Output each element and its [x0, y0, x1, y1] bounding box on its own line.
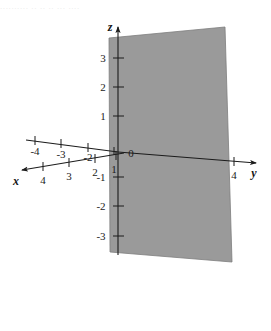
- z-tick-label-3: 3: [100, 52, 106, 64]
- x-tick-label-2: 2: [92, 166, 98, 178]
- x-tick-label-1: 1: [111, 163, 117, 175]
- z-tick-label-1: 1: [100, 110, 106, 122]
- shaded-plane: [109, 27, 232, 262]
- z-tick-label-neg-3: -3: [96, 230, 106, 242]
- z-axis-label: z: [107, 20, 113, 34]
- y-tick-label-neg-3: -3: [56, 148, 66, 160]
- x-tick-label-4: 4: [40, 174, 46, 186]
- y-tick-label-4: 4: [231, 169, 237, 181]
- y-axis-negative: [26, 140, 118, 152]
- y-tick-label-neg-2: -2: [83, 151, 92, 163]
- y-tick-label-neg-4: -4: [30, 145, 40, 157]
- figure-container: .......... .. .. .. ... ....: [0, 0, 271, 331]
- z-tick-label-neg-2: -2: [96, 200, 105, 212]
- z-tick-label-neg-1: -1: [96, 171, 105, 183]
- origin-label: 0: [128, 147, 134, 159]
- x-tick-label-3: 3: [66, 170, 72, 182]
- y-axis-label: y: [249, 166, 257, 180]
- x-axis-label: x: [12, 174, 19, 188]
- coordinate-plane-figure: 3 2 1 -1 -2 -3 -4 -3 -2 4 4 3 2 1 0 x y …: [0, 0, 271, 331]
- z-tick-label-2: 2: [100, 81, 106, 93]
